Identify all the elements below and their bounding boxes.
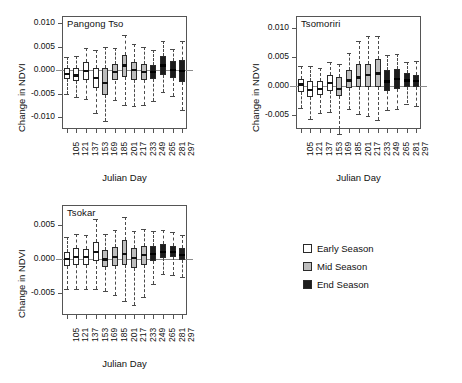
x-tick-label: 217 bbox=[138, 328, 148, 342]
x-tick-label: 169 bbox=[109, 142, 119, 156]
x-axis-label-0: Julian Day bbox=[62, 172, 187, 183]
whisker-cap-upper bbox=[132, 44, 137, 45]
whisker-cap-upper bbox=[385, 55, 390, 56]
y-tick-mark bbox=[292, 115, 296, 116]
whisker-upper bbox=[359, 41, 360, 64]
whisker-upper bbox=[134, 44, 135, 62]
whisker-cap-upper bbox=[347, 53, 352, 54]
x-tick-label: 249 bbox=[157, 142, 167, 156]
y-tick-label: -0.005 bbox=[10, 88, 55, 98]
whisker-lower bbox=[182, 82, 183, 110]
x-tick-mark bbox=[153, 129, 154, 133]
x-tick-mark bbox=[368, 129, 369, 133]
median-line bbox=[356, 76, 362, 78]
whisker-upper bbox=[407, 62, 408, 74]
legend-label: Mid Season bbox=[317, 261, 367, 272]
whisker-lower bbox=[153, 79, 154, 101]
x-tick-mark bbox=[387, 129, 388, 133]
whisker-cap-lower bbox=[113, 295, 118, 296]
box bbox=[336, 77, 342, 96]
whisker-cap-lower bbox=[180, 277, 185, 278]
x-tick-mark bbox=[105, 315, 106, 319]
x-tick-mark bbox=[125, 315, 126, 319]
whisker-cap-lower bbox=[161, 274, 166, 275]
y-tick-mark bbox=[292, 57, 296, 58]
whisker-cap-lower bbox=[337, 134, 342, 135]
median-line bbox=[317, 88, 323, 90]
whisker-cap-upper bbox=[308, 66, 313, 67]
x-tick-mark bbox=[105, 129, 106, 133]
median-line bbox=[170, 251, 176, 253]
whisker-upper bbox=[125, 217, 126, 241]
x-tick-mark bbox=[416, 129, 417, 133]
y-tick-mark bbox=[58, 117, 62, 118]
legend-item-0: Early Season bbox=[303, 243, 374, 254]
whisker-cap-lower bbox=[122, 301, 127, 302]
median-line bbox=[307, 89, 313, 91]
whisker-lower bbox=[134, 80, 135, 107]
x-tick-label: 137 bbox=[90, 328, 100, 342]
whisker-cap-upper bbox=[151, 50, 156, 51]
whisker-lower bbox=[144, 80, 145, 105]
median-line bbox=[73, 74, 79, 76]
whisker-upper bbox=[86, 48, 87, 62]
x-tick-mark bbox=[339, 129, 340, 133]
whisker-cap-lower bbox=[395, 109, 400, 110]
panel-title-2: Tsokar bbox=[67, 207, 96, 218]
whisker-cap-upper bbox=[151, 231, 156, 232]
y-tick-label: -0.005 bbox=[244, 109, 289, 119]
y-tick-mark bbox=[292, 28, 296, 29]
x-tick-mark bbox=[96, 129, 97, 133]
whisker-upper bbox=[182, 41, 183, 60]
whisker-lower bbox=[320, 95, 321, 113]
whisker-cap-upper bbox=[74, 56, 79, 57]
x-tick-label: 265 bbox=[401, 142, 411, 156]
whisker-cap-lower bbox=[103, 291, 108, 292]
whisker-cap-lower bbox=[141, 297, 146, 298]
whisker-upper bbox=[387, 55, 388, 71]
whisker-cap-lower bbox=[151, 101, 156, 102]
whisker-upper bbox=[173, 232, 174, 246]
whisker-lower bbox=[67, 79, 68, 94]
x-tick-mark bbox=[144, 129, 145, 133]
legend-item-1: Mid Season bbox=[303, 261, 367, 272]
whisker-cap-upper bbox=[103, 47, 108, 48]
whisker-lower bbox=[96, 261, 97, 288]
median-line bbox=[413, 80, 419, 82]
whisker-cap-upper bbox=[298, 66, 303, 67]
whisker-upper bbox=[339, 64, 340, 78]
median-line bbox=[327, 82, 333, 84]
whisker-upper bbox=[105, 234, 106, 250]
median-line bbox=[64, 258, 70, 260]
whisker-lower bbox=[310, 97, 311, 119]
whisker-lower bbox=[397, 89, 398, 109]
whisker-upper bbox=[310, 66, 311, 81]
x-tick-label: 249 bbox=[391, 142, 401, 156]
whisker-lower bbox=[387, 91, 388, 111]
legend-label: Early Season bbox=[317, 243, 374, 254]
whisker-lower bbox=[153, 261, 154, 284]
x-tick-mark bbox=[67, 315, 68, 319]
y-tick-label: 0.005 bbox=[10, 41, 55, 51]
median-line bbox=[141, 254, 147, 256]
legend-swatch-icon bbox=[303, 262, 312, 271]
x-tick-mark bbox=[359, 129, 360, 133]
whisker-cap-upper bbox=[161, 230, 166, 231]
whisker-cap-upper bbox=[337, 64, 342, 65]
x-tick-mark bbox=[320, 129, 321, 133]
whisker-upper bbox=[134, 231, 135, 248]
x-tick-label: 185 bbox=[119, 142, 129, 156]
whisker-upper bbox=[96, 50, 97, 68]
whisker-lower bbox=[173, 257, 174, 275]
x-tick-mark bbox=[163, 129, 164, 133]
x-tick-mark bbox=[397, 129, 398, 133]
median-line bbox=[131, 257, 137, 259]
x-tick-label: 121 bbox=[314, 142, 324, 156]
whisker-cap-upper bbox=[180, 235, 185, 236]
whisker-lower bbox=[115, 266, 116, 295]
median-line bbox=[346, 79, 352, 81]
whisker-cap-upper bbox=[180, 41, 185, 42]
whisker-lower bbox=[359, 87, 360, 114]
median-line bbox=[375, 72, 381, 74]
whisker-upper bbox=[125, 35, 126, 55]
